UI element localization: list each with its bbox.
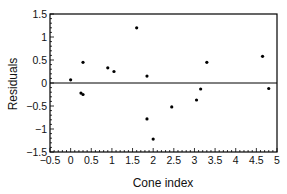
- data-point: [81, 93, 84, 96]
- x-tick-label: 3.5: [208, 154, 223, 166]
- data-point: [199, 87, 202, 90]
- x-tick-label: 3: [192, 154, 198, 166]
- y-tick-label: 1.5: [32, 8, 47, 20]
- y-tick-label: 0: [41, 77, 47, 89]
- y-tick-label: 0.5: [32, 54, 47, 66]
- x-tick-label: 2.5: [167, 154, 182, 166]
- data-point: [267, 87, 270, 90]
- data-point: [145, 117, 148, 120]
- x-tick-label: 5: [274, 154, 280, 166]
- data-point: [81, 61, 84, 64]
- data-point: [170, 105, 173, 108]
- x-tick-label: 4.5: [249, 154, 264, 166]
- y-axis-title: Residuals: [6, 58, 20, 111]
- data-point: [152, 138, 155, 141]
- y-tick-label: −0.5: [26, 100, 47, 112]
- x-tick-label: 0.5: [84, 154, 99, 166]
- data-point: [261, 55, 264, 58]
- x-tick-label: 1.5: [125, 154, 140, 166]
- data-point: [205, 61, 208, 64]
- x-tick-label: 0: [68, 154, 74, 166]
- y-tick-label: −1: [35, 123, 47, 135]
- data-point: [195, 98, 198, 101]
- x-tick-label: 4: [233, 154, 239, 166]
- y-tick-label: −1.5: [26, 146, 47, 158]
- data-point: [145, 75, 148, 78]
- residuals-scatter-chart: −0.500.511.522.533.544.55 1.510.50−0.5−1…: [0, 0, 287, 194]
- data-point: [69, 78, 72, 81]
- x-axis-title: Cone index: [133, 176, 194, 190]
- x-tick-label: 1: [109, 154, 115, 166]
- x-axis: −0.500.511.522.533.544.55: [40, 148, 280, 166]
- data-point: [135, 26, 138, 29]
- data-point: [112, 70, 115, 73]
- y-tick-label: 1: [41, 31, 47, 43]
- x-tick-label: 2: [150, 154, 156, 166]
- data-point: [106, 66, 109, 69]
